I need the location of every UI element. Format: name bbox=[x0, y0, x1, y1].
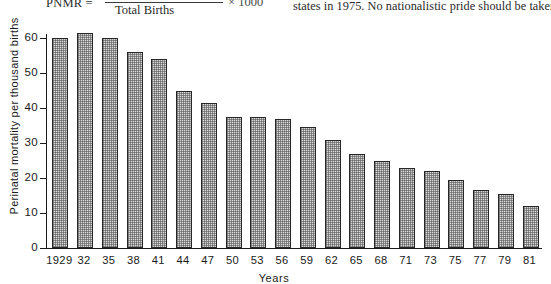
y-axis-tick bbox=[40, 213, 46, 214]
bar bbox=[127, 52, 143, 248]
y-axis-tick-label: 10 bbox=[4, 206, 38, 218]
bar bbox=[52, 38, 68, 248]
y-axis-tick bbox=[40, 73, 46, 74]
bar bbox=[349, 154, 365, 249]
bar bbox=[399, 168, 415, 249]
y-axis-tick-label: 40 bbox=[4, 101, 38, 113]
y-axis-tick-label: 60 bbox=[4, 31, 38, 43]
bar bbox=[300, 127, 316, 248]
bar bbox=[275, 119, 291, 249]
bar bbox=[226, 117, 242, 248]
bar bbox=[176, 91, 192, 249]
y-axis-tick bbox=[40, 108, 46, 109]
x-axis-tick-label: 81 bbox=[512, 254, 548, 266]
perinatal-mortality-bar-chart: Perinatal mortality per thousand births … bbox=[0, 24, 548, 280]
x-axis-title: Years bbox=[0, 272, 548, 284]
bar bbox=[102, 38, 118, 248]
bar bbox=[473, 190, 489, 248]
pnmr-formula-fragment: PNMR = Total Births × 1000 bbox=[0, 0, 290, 20]
bars-container bbox=[47, 24, 542, 248]
y-axis-tick bbox=[40, 38, 46, 39]
bar bbox=[424, 171, 440, 248]
bar bbox=[448, 180, 464, 248]
bar bbox=[201, 103, 217, 248]
y-axis-tick bbox=[40, 248, 46, 249]
y-axis-tick bbox=[40, 143, 46, 144]
y-axis-tick-label: 30 bbox=[4, 136, 38, 148]
bar bbox=[250, 117, 266, 248]
y-axis-tick-label: 20 bbox=[4, 171, 38, 183]
body-text-line: states in 1975. No nationalistic pride s… bbox=[293, 0, 551, 14]
x-axis-line bbox=[46, 248, 542, 249]
bar bbox=[498, 194, 514, 248]
formula-denominator: Total Births bbox=[115, 3, 174, 18]
formula-left-hand-side: PNMR = bbox=[46, 0, 93, 11]
y-axis-tick bbox=[40, 178, 46, 179]
bar bbox=[77, 33, 93, 248]
y-axis-tick-label: 50 bbox=[4, 66, 38, 78]
bar bbox=[151, 59, 167, 248]
y-axis-ticks: 0102030405060 bbox=[0, 24, 46, 264]
bar bbox=[523, 206, 539, 248]
bar bbox=[325, 140, 341, 249]
bar bbox=[374, 161, 390, 249]
y-axis-tick-label: 0 bbox=[4, 241, 38, 253]
formula-multiplier: × 1000 bbox=[228, 0, 263, 10]
